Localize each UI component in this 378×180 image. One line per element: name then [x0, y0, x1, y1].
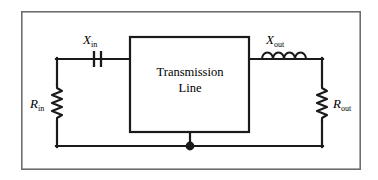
resistor-r-out-symbol: [317, 85, 327, 121]
capacitor-x-in-label: Xin: [82, 32, 97, 49]
inductor-x-out-subscript-text: out: [274, 40, 285, 49]
ground-junction-dot: [186, 142, 195, 151]
resistor-r-out-symbol-text: R: [332, 96, 341, 111]
resistor-r-in-label: Rin: [29, 96, 44, 113]
resistor-r-in-subscript-text: in: [38, 104, 44, 113]
resistor-r-in-symbol-text: R: [29, 96, 38, 111]
resistor-r-in-symbol: [52, 85, 62, 121]
transmission-line-label-line2: Line: [179, 81, 202, 95]
circuit-schematic-canvas: Transmission Line Rin Xin Xout Rout: [0, 0, 378, 180]
circuit-diagram-figure: Transmission Line Rin Xin Xout Rout: [0, 0, 378, 180]
inductor-x-out-label: Xout: [265, 32, 285, 49]
capacitor-x-in-subscript-text: in: [91, 40, 97, 49]
resistor-r-out-label: Rout: [332, 96, 352, 113]
resistor-r-out-subscript-text: out: [341, 104, 352, 113]
transmission-line-label-line1: Transmission: [157, 65, 225, 79]
